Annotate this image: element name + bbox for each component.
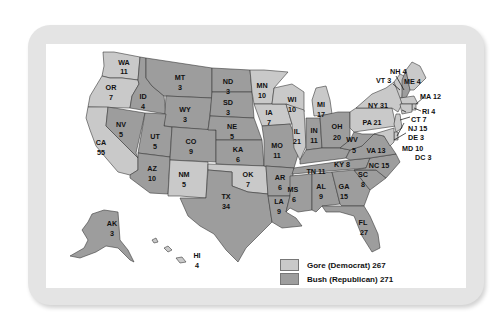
svg-text:3: 3 [226,87,230,96]
state-NM [168,160,208,198]
svg-text:WY: WY [179,105,191,114]
svg-text:5: 5 [119,130,123,139]
svg-text:ME 4: ME 4 [404,77,421,86]
state-HI [176,257,186,263]
svg-text:MI: MI [317,100,325,109]
svg-text:6: 6 [236,155,240,164]
state-IA [254,104,292,126]
svg-text:KA: KA [233,145,243,154]
svg-text:MO: MO [271,141,283,150]
svg-text:NE: NE [227,122,237,131]
svg-text:IN: IN [310,126,317,135]
svg-text:OH: OH [332,122,343,131]
svg-text:ID: ID [139,92,146,101]
svg-text:VT 3: VT 3 [376,76,391,85]
svg-text:MS: MS [288,185,299,194]
svg-text:17: 17 [317,110,325,119]
svg-text:21: 21 [293,137,301,146]
svg-text:AK: AK [107,219,118,228]
svg-text:7: 7 [109,93,113,102]
svg-text:10: 10 [148,174,156,183]
svg-text:NJ 15: NJ 15 [408,124,427,133]
svg-text:6: 6 [278,183,282,192]
svg-text:5: 5 [230,132,234,141]
svg-text:9: 9 [189,147,193,156]
svg-text:NM: NM [178,170,189,179]
svg-text:MN: MN [256,81,267,90]
svg-text:NY 31: NY 31 [368,101,388,110]
svg-text:KY 8: KY 8 [334,160,350,169]
svg-text:3: 3 [183,115,187,124]
state-CT [400,104,412,114]
svg-text:FL: FL [359,218,368,227]
svg-text:CA: CA [96,138,106,147]
svg-text:MA 12: MA 12 [420,92,441,101]
svg-text:IL: IL [294,127,301,136]
svg-text:55: 55 [97,148,105,157]
svg-text:10: 10 [288,105,296,114]
us-electoral-map: WA11 OR7 CA55 ID4 NV5 MT3 WY3 UT5 AZ10 C… [0,0,504,323]
svg-text:DC 3: DC 3 [415,153,431,162]
svg-text:TX: TX [221,192,230,201]
svg-text:DE 3: DE 3 [408,133,424,142]
svg-text:AZ: AZ [147,164,157,173]
svg-text:WA: WA [118,58,130,67]
svg-text:LA: LA [274,197,284,206]
svg-text:8: 8 [361,180,365,189]
svg-text:6: 6 [292,195,296,204]
svg-text:34: 34 [222,202,230,211]
svg-text:NC 15: NC 15 [369,161,389,170]
legend-item-bush: Bush (Republican) 271 [280,272,393,286]
svg-text:3: 3 [226,108,230,117]
state-RI [412,104,416,110]
svg-text:VA 13: VA 13 [366,146,385,155]
svg-text:3: 3 [178,83,182,92]
svg-text:WV: WV [346,135,358,144]
svg-text:27: 27 [360,228,368,237]
state-AK [70,210,134,262]
svg-text:AL: AL [316,182,326,191]
svg-text:NV: NV [116,120,126,129]
svg-text:UT: UT [150,132,160,141]
state-HI-3 [152,238,158,243]
svg-text:MT: MT [175,73,186,82]
svg-text:HI: HI [193,251,200,260]
svg-text:11: 11 [273,151,281,160]
svg-text:3: 3 [110,229,114,238]
legend-label-gore: Gore (Democrat) 267 [307,261,386,270]
svg-text:11: 11 [310,136,318,145]
svg-text:11: 11 [120,67,128,76]
svg-text:20: 20 [333,133,341,142]
svg-text:7: 7 [246,180,250,189]
state-HI-2 [164,246,172,252]
svg-text:5: 5 [182,180,186,189]
svg-text:4: 4 [195,261,199,270]
svg-text:15: 15 [340,192,348,201]
svg-text:10: 10 [258,91,266,100]
svg-text:AR: AR [275,173,286,182]
svg-text:OK: OK [243,170,255,179]
svg-text:CO: CO [186,137,197,146]
svg-text:ND: ND [223,77,233,86]
svg-text:9: 9 [319,192,323,201]
svg-text:7: 7 [267,118,271,127]
svg-text:IA: IA [265,108,272,117]
svg-text:9: 9 [277,207,281,216]
svg-text:5: 5 [153,142,157,151]
svg-text:PA 21: PA 21 [362,118,381,127]
svg-text:TN 11: TN 11 [306,167,325,176]
legend: Gore (Democrat) 267 Bush (Republican) 27… [280,258,393,286]
legend-label-bush: Bush (Republican) 271 [307,275,393,284]
legend-swatch-gore [280,259,299,271]
svg-text:OR: OR [106,83,118,92]
svg-text:4: 4 [141,102,145,111]
svg-text:CT 7: CT 7 [411,115,427,124]
svg-text:SD: SD [223,98,233,107]
svg-text:SC: SC [358,170,368,179]
legend-item-gore: Gore (Democrat) 267 [280,258,393,272]
svg-text:WI: WI [288,95,297,104]
svg-text:MD 10: MD 10 [402,144,423,153]
state-FL [322,206,380,252]
svg-text:NH 4: NH 4 [390,67,406,76]
legend-swatch-bush [280,273,299,285]
